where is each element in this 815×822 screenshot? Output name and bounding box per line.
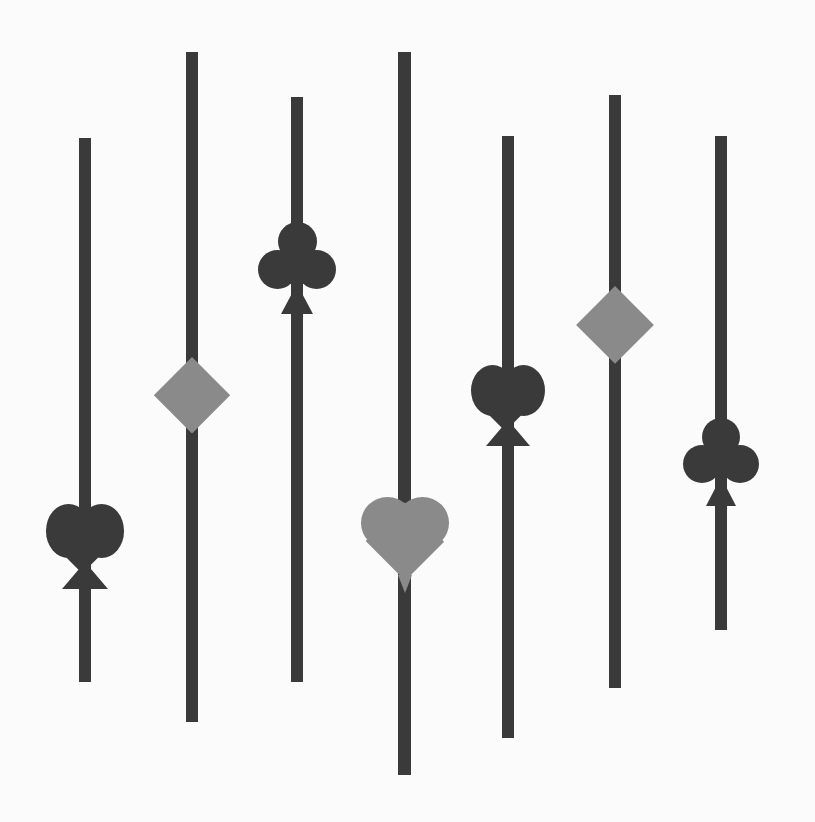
slider-canvas <box>0 0 815 822</box>
heart-tip <box>398 575 412 596</box>
slider-handle[interactable] <box>576 286 654 364</box>
slider-handle[interactable] <box>154 357 230 433</box>
spade-stem <box>62 559 108 589</box>
slider-handle[interactable] <box>683 418 759 506</box>
diamond-icon[interactable] <box>154 357 230 433</box>
diamond-icon[interactable] <box>576 286 654 364</box>
club-icon[interactable] <box>258 222 336 314</box>
spade-icon[interactable] <box>46 497 124 589</box>
club-icon[interactable] <box>683 418 759 506</box>
club-stem <box>706 474 736 506</box>
spade-icon[interactable] <box>471 358 545 446</box>
heart-icon[interactable] <box>361 497 449 583</box>
slider-track[interactable] <box>398 52 411 775</box>
slider-handle[interactable] <box>46 497 124 589</box>
slider-track[interactable] <box>79 138 91 682</box>
slider-handle[interactable] <box>258 222 336 314</box>
spade-stem <box>486 417 530 446</box>
club-stem <box>281 281 313 314</box>
slider-4[interactable] <box>0 0 815 822</box>
slider-handle[interactable] <box>471 358 545 446</box>
slider-track[interactable] <box>715 136 727 630</box>
slider-handle[interactable] <box>361 497 449 583</box>
slider-track[interactable] <box>291 97 303 682</box>
slider-track[interactable] <box>609 95 621 688</box>
